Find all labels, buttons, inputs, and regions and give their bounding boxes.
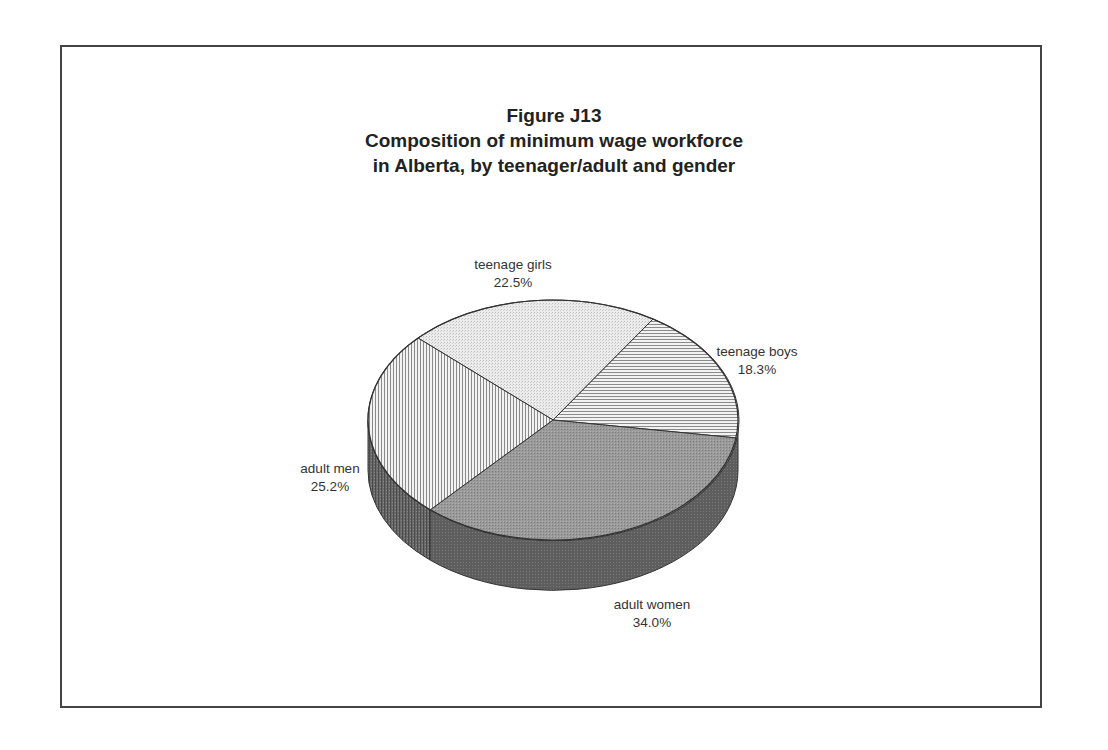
label-adult-women: adult women 34.0% — [614, 596, 691, 632]
pie-chart — [0, 0, 1108, 750]
label-adult-women-value: 34.0% — [614, 614, 691, 632]
label-teenage-girls-name: teenage girls — [474, 256, 551, 274]
label-teenage-girls: teenage girls 22.5% — [474, 256, 551, 292]
label-adult-men: adult men 25.2% — [300, 460, 359, 496]
label-adult-women-name: adult women — [614, 596, 691, 614]
label-adult-men-value: 25.2% — [300, 478, 359, 496]
label-teenage-boys-name: teenage boys — [716, 343, 797, 361]
label-teenage-boys-value: 18.3% — [716, 361, 797, 379]
label-teenage-boys: teenage boys 18.3% — [716, 343, 797, 379]
label-teenage-girls-value: 22.5% — [474, 274, 551, 292]
label-adult-men-name: adult men — [300, 460, 359, 478]
